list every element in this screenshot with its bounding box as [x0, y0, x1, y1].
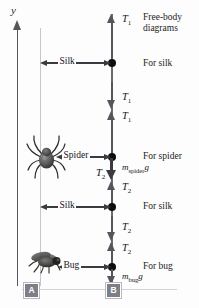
- force-subscript: 2: [128, 187, 132, 195]
- y-axis-line: [17, 28, 18, 286]
- force-shaft-t1-up-spider: [111, 119, 113, 155]
- force-label-t2-down-silk2: T2: [122, 222, 131, 235]
- force-subscript: 1: [128, 97, 132, 105]
- force-shaft-t1-down-silk: [111, 82, 113, 102]
- caption-free-body-diagrams: Free-body diagrams: [143, 12, 182, 34]
- caption-for-silk-top: For silk: [143, 58, 172, 69]
- measure-shaft: [45, 62, 109, 63]
- force-subscript: 2: [102, 173, 106, 181]
- bottom-divider-rule: [22, 289, 177, 290]
- force-shaft-t1-up-top: [111, 22, 113, 58]
- force-arrowhead-t1-down-silk-icon: [107, 100, 115, 109]
- weight-label-bug: mbugg: [122, 272, 143, 283]
- measure-arrowhead-right-icon: [104, 204, 111, 210]
- spider-illustration-icon: [26, 131, 66, 181]
- free-body-diagram-figure: y T1 T1 T1 mspiderg T2 T2 T2: [0, 0, 199, 308]
- force-label-t2-down-spider: T2: [96, 168, 105, 181]
- force-label-t1-down-silk: T1: [122, 92, 131, 105]
- force-subscript: 2: [128, 227, 132, 235]
- measure-label-silk-top: Silk: [58, 57, 76, 67]
- measure-label-spider: Spider: [62, 151, 90, 161]
- weight-suffix: g: [144, 162, 149, 172]
- weight-subscript: spider: [129, 167, 145, 174]
- force-label-t2-up-silk2: T2: [122, 182, 131, 195]
- weight-subscript: bug: [129, 276, 139, 283]
- measure-arrowhead-right-icon: [104, 60, 111, 66]
- measure-silk-bottom: Silk: [40, 203, 112, 211]
- weight-arrowhead-spider-icon: [106, 170, 116, 180]
- force-label-t1-up-top: T1: [122, 14, 131, 27]
- force-label-t2-up-bug: T2: [122, 243, 131, 256]
- force-subscript: 1: [128, 116, 132, 124]
- caption-for-bug: For bug: [143, 261, 173, 272]
- force-subscript: 1: [128, 19, 132, 27]
- marker-b: B: [106, 283, 121, 298]
- bug-illustration-icon: [27, 249, 67, 275]
- caption-for-spider: For spider: [143, 151, 182, 162]
- marker-a: A: [24, 283, 39, 298]
- measure-silk-top: Silk: [40, 59, 112, 67]
- force-subscript: 2: [128, 248, 132, 256]
- measure-arrowhead-right-icon: [104, 154, 111, 160]
- force-label-t1-up-spider: T1: [122, 111, 131, 124]
- measure-label-silk-bottom: Silk: [58, 201, 76, 211]
- caption-for-silk-bottom: For silk: [143, 201, 172, 212]
- y-axis-label: y: [11, 4, 16, 16]
- measure-shaft: [45, 206, 109, 207]
- measure-arrowhead-right-icon: [104, 264, 111, 270]
- weight-suffix: g: [138, 271, 143, 281]
- weight-label-spider: mspiderg: [122, 163, 149, 174]
- force-arrowhead-t2-down-silk2-icon: [107, 232, 115, 241]
